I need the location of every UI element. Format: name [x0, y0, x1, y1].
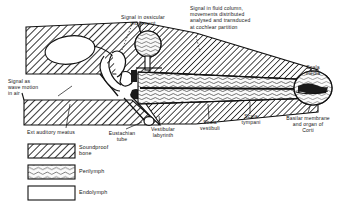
legend-label-soundproof-bone: Soundproof bone	[79, 144, 108, 157]
legend-swatch-soundproof-bone	[28, 144, 75, 158]
annotation-ext-auditory-meatus: Ext auditory meatus	[27, 129, 75, 135]
annotation-fluid-column: Signal in fluid column, movements distri…	[190, 5, 250, 30]
basilar-membrane-line	[140, 88, 312, 89]
annotation-basilar-membrane: Basilar membrane and organ of Corti	[272, 115, 344, 134]
oval-window	[131, 70, 137, 82]
annotation-eustachian-tube: Eustachian tube	[100, 130, 144, 142]
legend-swatch-endolymph	[28, 186, 75, 200]
legend-swatches	[28, 144, 75, 200]
diagram-canvas	[0, 0, 349, 208]
legend-swatch-perilymph	[28, 165, 75, 179]
annotation-scala-media: Scala media	[296, 64, 330, 76]
annotation-wave-motion: Signal as wave motion in air	[8, 78, 38, 97]
annotation-scala-tympani: Scala tympani	[234, 113, 268, 125]
ear-signal-transduction-diagram: Signal as wave motion in air Signal in o…	[0, 0, 349, 208]
legend-label-perilymph: Perilymph	[79, 168, 104, 174]
cochlear-upper-bone-wedge	[140, 22, 318, 80]
annotation-scala-vestibuli: Scala vestibuli	[192, 119, 228, 131]
legend-label-endolymph: Endolymph	[79, 189, 107, 195]
annotation-vestibular-labyrinth: Vestibular labyrinth	[142, 126, 184, 138]
annotation-ossicular-movement: Signal in ossicular movement	[112, 14, 174, 26]
upper-bone-block	[26, 22, 152, 74]
